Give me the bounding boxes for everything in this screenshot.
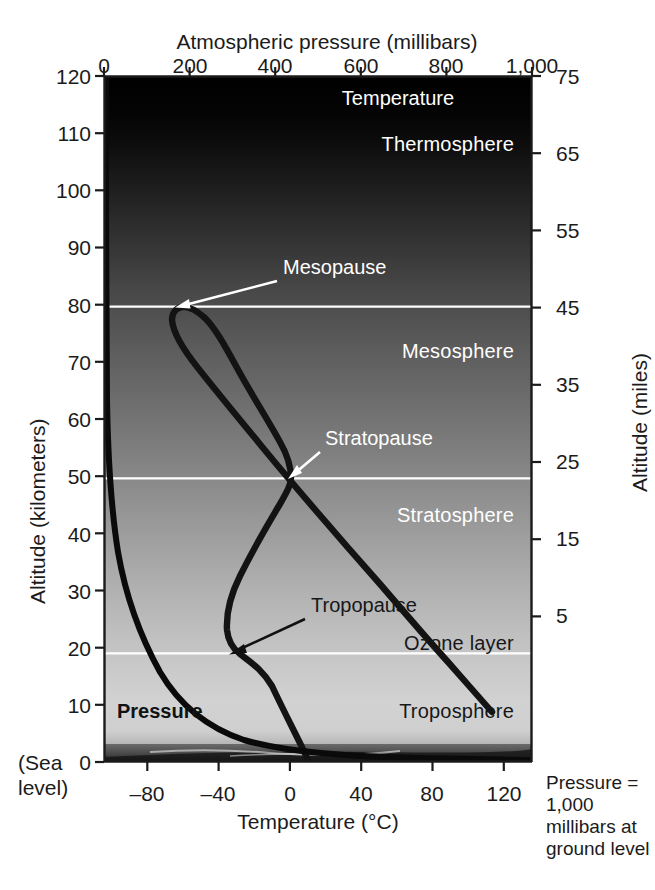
layer-label-stratosphere: Stratosphere [397, 504, 514, 527]
left-axis-ticks [95, 76, 104, 762]
top-axis-ticks [104, 67, 532, 76]
layer-label-mesosphere: Mesosphere [402, 340, 514, 363]
pressure-curve-label: Pressure [117, 700, 203, 723]
layer-label-ozone: Ozone layer [404, 632, 514, 655]
stratopause-label: Stratopause [325, 427, 433, 450]
atmosphere-chart-figure: Atmospheric pressure (millibars) 0 200 4… [0, 0, 655, 890]
right-axis-ticks [532, 76, 541, 616]
mesopause-label: Mesopause [283, 256, 386, 279]
plot-background [104, 76, 532, 762]
tropopause-label: Tropopause [311, 594, 417, 617]
layer-label-troposphere: Troposphere [399, 700, 514, 723]
bottom-axis-ticks [147, 762, 504, 771]
temperature-curve-label: Temperature [342, 87, 454, 110]
layer-label-thermosphere: Thermosphere [382, 133, 514, 156]
